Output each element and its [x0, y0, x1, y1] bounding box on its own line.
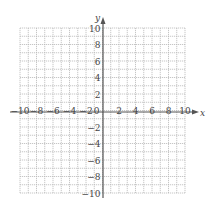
y-tick-label: −6	[87, 156, 101, 166]
y-tick-label: 6	[95, 57, 101, 67]
y-axis-label: y	[94, 13, 101, 23]
x-axis-label: x	[200, 108, 205, 118]
x-tick-label: −2	[79, 106, 92, 116]
x-tick-label: −8	[30, 106, 44, 116]
y-tick-label: 4	[95, 73, 101, 83]
y-tick-label: 8	[95, 40, 101, 50]
y-tick-label: −8	[87, 172, 101, 182]
x-tick-label: 10	[179, 106, 191, 116]
x-tick-label: 8	[166, 106, 172, 116]
x-tick-label: −6	[46, 106, 60, 116]
y-tick-label: 2	[95, 90, 101, 100]
y-tick-label: −4	[87, 139, 101, 149]
x-tick-label: 0	[94, 106, 100, 116]
x-tick-label: 4	[133, 106, 139, 116]
y-tick-label: −2	[87, 123, 100, 133]
x-tick-label: −4	[63, 106, 77, 116]
tick-labels: −10−8−6−4−20246810−10−8−6−4−2246810	[11, 24, 191, 199]
x-axis-arrow-icon	[192, 110, 199, 115]
y-tick-label: 10	[89, 24, 101, 34]
y-tick-label: −10	[82, 189, 101, 199]
coordinate-grid: −10−8−6−4−20246810−10−8−6−4−2246810 x y	[0, 0, 211, 215]
x-tick-label: 2	[116, 106, 122, 116]
x-tick-label: 6	[149, 106, 155, 116]
x-tick-label: −10	[11, 106, 30, 116]
y-axis-arrow-icon	[101, 17, 106, 24]
